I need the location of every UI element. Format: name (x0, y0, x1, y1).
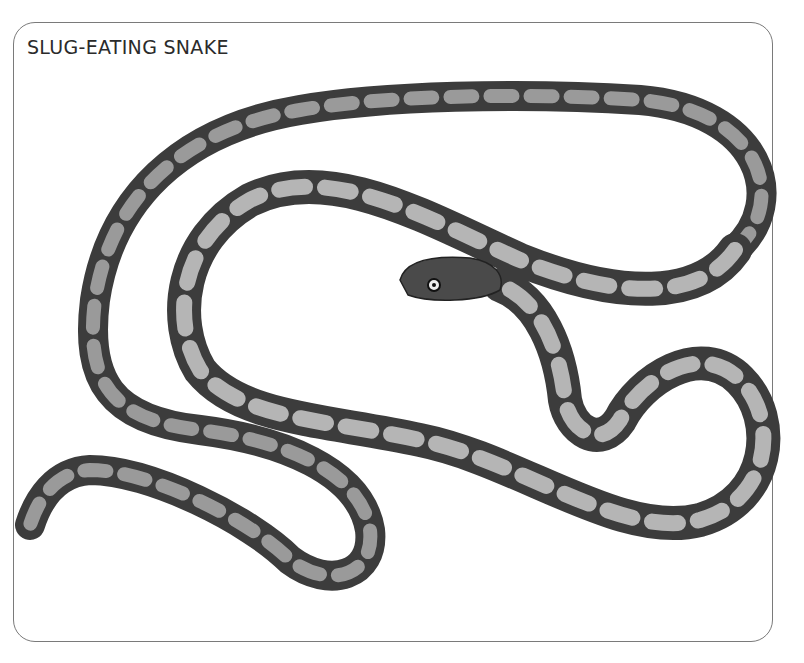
snake-illustration (0, 0, 804, 663)
snake-head (400, 257, 501, 300)
snake-body-outer (30, 96, 762, 576)
